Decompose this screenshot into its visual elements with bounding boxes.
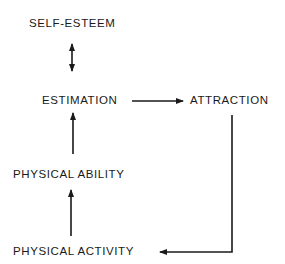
edges-layer [0, 0, 285, 264]
edge-attraction-physical-activity [160, 115, 232, 252]
